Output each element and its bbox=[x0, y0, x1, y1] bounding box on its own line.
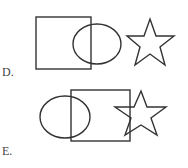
option-e[interactable]: E. bbox=[0, 84, 188, 168]
option-e-figure bbox=[0, 84, 188, 168]
option-e-label: E. bbox=[2, 144, 12, 159]
option-d[interactable]: D. bbox=[0, 0, 188, 84]
star-shape bbox=[127, 19, 174, 65]
option-d-label: D. bbox=[2, 65, 14, 80]
option-d-figure bbox=[0, 0, 188, 84]
star-shape bbox=[115, 91, 166, 135]
circle-shape bbox=[73, 24, 121, 64]
circle-shape bbox=[40, 96, 90, 138]
square-shape bbox=[36, 17, 91, 69]
